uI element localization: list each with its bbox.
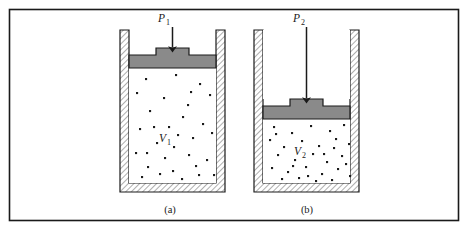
pressure-label-b: P <box>292 12 300 24</box>
pressure-label-a-subscript: 1 <box>166 18 170 27</box>
piston-b <box>263 99 350 119</box>
pressure-label-a: P <box>157 12 165 24</box>
panel-b: P 2 V 2 (b) <box>254 12 359 216</box>
panel-b-caption: (b) <box>301 204 314 216</box>
gas-cavity-a <box>129 68 216 183</box>
panel-a: P 1 V 1 (a) <box>120 12 225 216</box>
figure-frame <box>10 10 459 221</box>
diagram-canvas: P 1 V 1 (a) <box>0 0 470 233</box>
panel-a-caption: (a) <box>164 204 176 216</box>
piston-a <box>129 48 216 68</box>
volume-label-a-subscript: 1 <box>167 138 171 147</box>
volume-label-b-subscript: 2 <box>302 151 306 160</box>
gas-cavity-b <box>263 119 350 183</box>
pressure-label-b-subscript: 2 <box>301 18 305 27</box>
physics-diagram-figure: P 1 V 1 (a) <box>0 0 470 233</box>
